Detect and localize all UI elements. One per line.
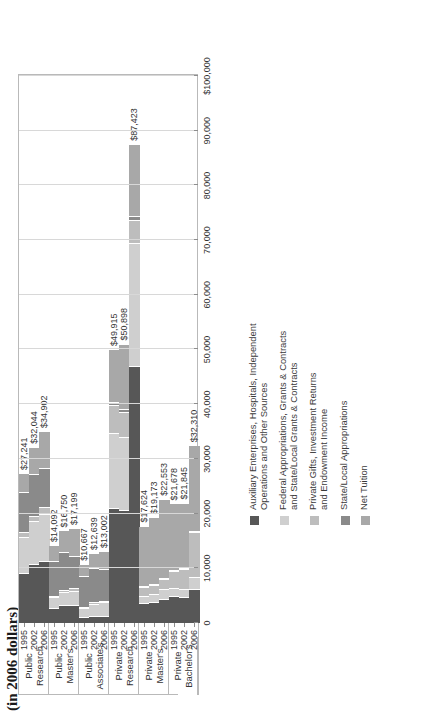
bar-value-label: $21,678 <box>169 468 179 501</box>
year-label-text: 2002 <box>29 623 39 650</box>
bar-segment <box>129 145 140 216</box>
legend-swatch-icon <box>361 516 370 525</box>
x-axis-tick-label: 50,000 <box>202 336 212 364</box>
x-axis-tick-label: 30,000 <box>202 445 212 473</box>
x-axis-tick <box>194 294 198 295</box>
bar-value-label: $10,667 <box>79 528 89 561</box>
year-label-text: 1995 <box>169 623 179 650</box>
year-label: 2002 <box>179 623 189 695</box>
gridline <box>19 130 197 131</box>
year-label-text: 2002 <box>119 623 129 650</box>
year-label-text: 1995 <box>49 623 59 650</box>
bar-segment <box>129 216 140 220</box>
legend-item: Net Tuition <box>359 5 370 525</box>
gridline <box>19 513 197 514</box>
gridline <box>19 349 197 350</box>
legend-item: State/Local Appropriations <box>339 5 350 525</box>
gridline <box>19 458 197 459</box>
year-label: 2006 <box>69 623 79 695</box>
bar-value-label: $21,845 <box>179 467 189 500</box>
bar-segment <box>39 468 50 507</box>
bar-value-label: $22,553 <box>159 463 169 496</box>
x-axis-tick-label: 20,000 <box>202 500 212 528</box>
year-label: 2006 <box>129 623 139 695</box>
year-label: 1995 <box>49 623 59 695</box>
year-label: 2002 <box>29 623 39 695</box>
x-axis-tick <box>194 239 198 240</box>
x-axis-tick <box>194 458 198 459</box>
bar-value-label: $17,199 <box>69 492 79 525</box>
x-axis-tick <box>194 349 198 350</box>
legend-item: Federal Appropriations, Grants & Contrac… <box>278 5 299 525</box>
x-axis-tick-label: 10,000 <box>202 555 212 583</box>
bar-value-label: $16,750 <box>59 495 69 528</box>
year-label-text: 2006 <box>159 623 169 650</box>
gridline <box>19 403 197 404</box>
legend-swatch-icon <box>250 516 259 525</box>
x-axis-tick <box>194 130 198 131</box>
year-label: 2002 <box>59 623 69 695</box>
x-axis-tick <box>194 622 198 623</box>
bar-value-label: $12,639 <box>89 517 99 550</box>
year-label-text: 1995 <box>139 623 149 650</box>
gridline <box>19 294 197 295</box>
year-label: 1995 <box>139 623 149 695</box>
year-label-text: 2002 <box>59 623 69 650</box>
year-label-text: 1995 <box>109 623 119 650</box>
year-label: 1995 <box>19 623 29 695</box>
year-label: 2002 <box>149 623 159 695</box>
bar-value-label: $17,624 <box>139 490 149 523</box>
bar-value-label: $50,898 <box>119 308 129 341</box>
chart-legend: Auxiliary Enterprises, Hospitals, Indepe… <box>248 5 379 525</box>
year-label-text: 1995 <box>79 623 89 650</box>
bar-segment <box>129 243 140 366</box>
x-axis-tick <box>194 567 198 568</box>
year-label: 1995 <box>79 623 89 695</box>
year-label-text: 2006 <box>189 623 199 650</box>
year-label: 2006 <box>159 623 169 695</box>
bar-value-label: $14,092 <box>49 509 59 542</box>
year-label-text: 2006 <box>129 623 139 650</box>
x-axis-tick <box>194 184 198 185</box>
legend-item-label: Federal Appropriations, Grants & Contrac… <box>278 331 299 510</box>
bar-value-label: $27,241 <box>19 437 29 470</box>
bar-value-label: $87,423 <box>129 108 139 141</box>
legend-item-label: Auxiliary Enterprises, Hospitals, Indepe… <box>248 323 269 510</box>
legend-item-label: Private Gifts, Investment Returns and En… <box>308 372 329 510</box>
x-axis-tick-label: 60,000 <box>202 281 212 309</box>
legend-item-label: Net Tuition <box>359 465 370 510</box>
year-label-text: 2006 <box>69 623 79 650</box>
legend-swatch-icon <box>310 516 319 525</box>
x-axis-tick-label: 0 <box>202 620 212 625</box>
x-axis-tick-label: $100,000 <box>202 57 212 95</box>
bar-value-label: $32,044 <box>29 411 39 444</box>
year-label: 2006 <box>99 623 109 695</box>
x-axis-tick-label: 70,000 <box>202 226 212 254</box>
legend-swatch-icon <box>341 516 350 525</box>
plot-frame: 1995$27,2412002$32,0442006$34,9021995$14… <box>18 74 198 623</box>
year-label-text: 2002 <box>179 623 189 650</box>
bar-value-label: $49,915 <box>109 313 119 346</box>
x-axis-tick-label: 80,000 <box>202 172 212 200</box>
bar-segment <box>39 432 50 468</box>
year-label: 2002 <box>89 623 99 695</box>
legend-swatch-icon <box>280 516 289 525</box>
legend-item: Private Gifts, Investment Returns and En… <box>308 5 329 525</box>
bar-segment <box>69 529 80 556</box>
year-label-text: 2006 <box>99 623 109 650</box>
year-label: 1995 <box>109 623 119 695</box>
bar-value-label: $34,902 <box>39 396 49 429</box>
year-label-text: 1995 <box>19 623 29 650</box>
gridline <box>19 567 197 568</box>
x-axis-tick <box>194 75 198 76</box>
bar-value-label: $19,173 <box>149 482 159 515</box>
year-label: 2006 <box>39 623 49 695</box>
year-label-text: 2006 <box>39 623 49 650</box>
gridline <box>19 239 197 240</box>
x-axis-tick-label: 90,000 <box>202 117 212 145</box>
gridline <box>19 75 197 76</box>
legend-item: Auxiliary Enterprises, Hospitals, Indepe… <box>248 5 269 525</box>
x-axis-tick <box>194 403 198 404</box>
x-axis-tick-label: 40,000 <box>202 390 212 418</box>
gridline <box>19 184 197 185</box>
